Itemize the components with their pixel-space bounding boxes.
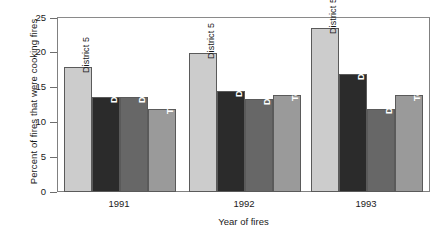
bar-label-1991-district-8: District 8 [110, 63, 119, 103]
y-axis-title: Percent of fires that were cooking fires [28, 7, 39, 197]
bar-1993-district-13[interactable] [367, 109, 395, 193]
x-tick-label-1991: 1991 [64, 198, 174, 209]
bar-label-1993-district-13: District 13 [385, 70, 394, 115]
x-tick-label-1993: 1993 [311, 198, 421, 209]
x-axis-title: Year of fires [57, 216, 430, 227]
bar-label-1992-total-city: Total city [291, 61, 300, 101]
y-tick-label: 15 [0, 81, 46, 92]
bar-group-1991: District 5 District 8 District 13 Total … [64, 18, 174, 192]
bar-label-1991-district-13: District 13 [138, 58, 147, 103]
bar-1992-district-13[interactable] [245, 99, 273, 192]
bar-chart-figure: Percent of fires that were cooking fires… [0, 0, 441, 234]
y-tick-label: 20 [0, 46, 46, 57]
y-tick-line [50, 18, 57, 19]
bar-label-1993-district-8: District 8 [357, 40, 366, 80]
x-tick-label-1992: 1992 [189, 198, 299, 209]
bar-label-1992-district-13: District 13 [263, 61, 272, 106]
y-tick-line [50, 157, 57, 158]
bar-1993-total-city[interactable] [395, 95, 423, 192]
bar-label-1991-district-5: District 5 [82, 37, 91, 73]
y-tick-label: 0 [0, 186, 46, 197]
y-tick-line [50, 87, 57, 88]
y-tick-label: 10 [0, 116, 46, 127]
bar-1993-district-5[interactable] [311, 28, 339, 192]
bar-1993-district-8[interactable] [339, 74, 367, 192]
bar-1992-total-city[interactable] [273, 95, 301, 192]
bar-1991-total-city[interactable] [148, 109, 176, 193]
bar-group-1992: District 5 District 8 District 13 Total … [189, 18, 299, 192]
bar-1991-district-13[interactable] [120, 97, 148, 192]
bar-group-1993: District 5 District 8 District 13 Total … [311, 18, 421, 192]
bar-1991-district-5[interactable] [64, 67, 92, 192]
bars-layer: District 5 District 8 District 13 Total … [58, 18, 429, 192]
bar-1991-district-8[interactable] [92, 97, 120, 192]
y-tick-label: 5 [0, 151, 46, 162]
bar-label-1992-district-8: District 8 [235, 58, 244, 98]
y-tick-line [50, 52, 57, 53]
y-tick-label: 25 [0, 12, 46, 23]
bar-label-1993-total-city: Total city [413, 61, 422, 101]
bar-1992-district-5[interactable] [189, 53, 217, 192]
bar-1992-district-8[interactable] [217, 91, 245, 192]
bar-label-1993-district-5: District 5 [329, 0, 338, 34]
y-tick-line [50, 192, 57, 193]
bar-label-1992-district-5: District 5 [207, 23, 216, 59]
bar-label-1991-total-city: Total city [166, 75, 175, 115]
y-tick-line [50, 122, 57, 123]
